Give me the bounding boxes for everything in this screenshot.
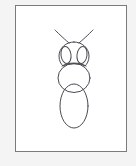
app-root	[0, 0, 136, 166]
antenna-right	[79, 30, 93, 43]
drawing-canvas[interactable]	[15, 5, 127, 152]
thorax	[58, 64, 90, 93]
drawing-layer	[55, 30, 93, 128]
eye-left	[60, 46, 72, 64]
head	[59, 42, 89, 66]
insect-line-drawing	[16, 6, 128, 153]
antenna-left	[55, 30, 69, 43]
abdomen	[60, 84, 88, 128]
eye-right	[76, 46, 88, 64]
